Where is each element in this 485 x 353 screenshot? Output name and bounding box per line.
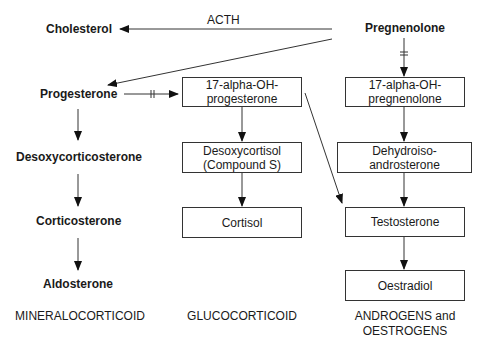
box-oh-pregnenolone-line2: pregnenolone bbox=[368, 92, 441, 106]
category-mineralocorticoid: MINERALOCORTICOID bbox=[10, 309, 150, 324]
box-testosterone: Testosterone bbox=[345, 207, 465, 237]
acth-label: ACTH bbox=[207, 13, 240, 27]
node-desoxycorticosterone: Desoxycorticosterone bbox=[16, 150, 142, 164]
box-oestradiol-label: Oestradiol bbox=[378, 279, 433, 293]
node-cholesterol: Cholesterol bbox=[46, 22, 112, 36]
node-pregnenolone: Pregnenolone bbox=[365, 21, 445, 35]
category-androgens-line1: ANDROGENS and bbox=[345, 309, 465, 324]
box-oh-progesterone-line2: progesterone bbox=[206, 92, 279, 106]
category-androgens-oestrogens: ANDROGENS and OESTROGENS bbox=[345, 309, 465, 339]
box-cortisol-label: Cortisol bbox=[222, 216, 263, 230]
box-oestradiol: Oestradiol bbox=[345, 270, 465, 301]
box-desoxycortisol-line2: (Compound S) bbox=[203, 158, 281, 172]
box-oh-progesterone: 17-alpha-OH- progesterone bbox=[182, 77, 302, 107]
box-oh-pregnenolone-line1: 17-alpha-OH- bbox=[368, 78, 441, 92]
steroid-pathway-diagram: ACTH Cholesterol Pregnenolone Progestero… bbox=[0, 0, 485, 353]
box-dhea: Dehydroiso- androsterone bbox=[337, 142, 472, 173]
box-oh-pregnenolone: 17-alpha-OH- pregnenolone bbox=[345, 77, 465, 107]
node-progesterone: Progesterone bbox=[40, 87, 117, 101]
node-corticosterone: Corticosterone bbox=[36, 214, 121, 228]
box-desoxycortisol: Desoxycortisol (Compound S) bbox=[182, 142, 302, 173]
node-aldosterone: Aldosterone bbox=[43, 277, 113, 291]
box-testosterone-label: Testosterone bbox=[371, 215, 440, 229]
box-cortisol: Cortisol bbox=[182, 207, 302, 238]
box-oh-progesterone-line1: 17-alpha-OH- bbox=[206, 78, 279, 92]
category-androgens-line2: OESTROGENS bbox=[345, 324, 465, 339]
box-desoxycortisol-line1: Desoxycortisol bbox=[203, 144, 281, 158]
box-dhea-line2: androsterone bbox=[369, 158, 440, 172]
category-glucocorticoid: GLUCOCORTICOID bbox=[182, 309, 302, 324]
box-dhea-line1: Dehydroiso- bbox=[369, 144, 440, 158]
